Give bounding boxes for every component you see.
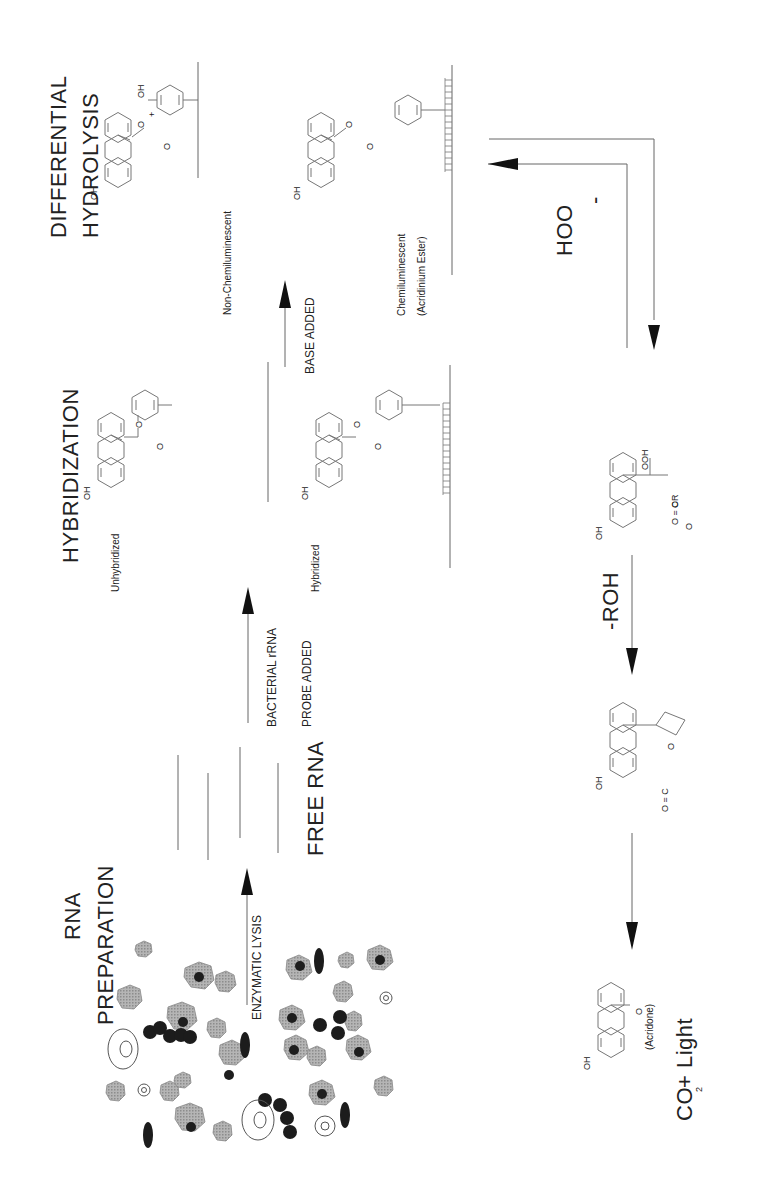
oh3-label: OH xyxy=(582,1057,592,1071)
acridone-product xyxy=(598,983,630,1058)
oh3-label: OH xyxy=(89,187,99,201)
free-rna-label: FREE RNA xyxy=(303,741,329,856)
carboxylate-o-label: O xyxy=(162,143,172,150)
roh-label: -ROH xyxy=(598,572,624,630)
acridone-label: (Acridone) xyxy=(644,1004,655,1050)
hoo-charge: - xyxy=(582,196,608,204)
ester-o-label: O xyxy=(352,421,362,428)
unhybridized-acridinium-ester xyxy=(98,362,268,502)
hoo-label: HOO xyxy=(552,204,578,256)
oc-label: O = C xyxy=(670,501,680,525)
free-rna-strands xyxy=(178,747,278,860)
non-chemiluminescent-label: Non-Chemiluminescent xyxy=(222,211,233,315)
base-added-label: BASE ADDED xyxy=(303,297,317,374)
dioxetane-o-label: O xyxy=(684,523,694,530)
products-light: + Light xyxy=(672,1018,698,1088)
probe-added-label: PROBE ADDED xyxy=(300,640,314,727)
hybridization-title: HYBRIDIZATION xyxy=(58,388,84,563)
oh3-label: OH xyxy=(292,187,302,201)
dioxetane-o-label: O xyxy=(666,743,676,750)
products-co: CO xyxy=(672,1087,698,1121)
ester-o-label: O xyxy=(344,121,354,128)
roh-arrow xyxy=(626,555,638,675)
decomposition-arrow xyxy=(626,833,638,950)
chemiluminescent-label: Chemiluminescent xyxy=(396,234,407,316)
plus-sign: + xyxy=(147,112,157,117)
carbonyl-o-label: O xyxy=(155,443,165,450)
non-chemiluminescent-product xyxy=(105,62,198,188)
probe-added-arrow xyxy=(242,587,254,723)
oc-label: O = C xyxy=(660,788,670,812)
hybridized-label: Hybridized xyxy=(310,545,321,592)
acridone-o-label: O xyxy=(634,1008,644,1015)
carboxylate-o-minus-label: O xyxy=(136,121,146,128)
carbonyl-o-label: O xyxy=(373,443,383,450)
dioxetanone-intermediate xyxy=(610,703,685,778)
oh3-label: OH xyxy=(594,777,604,791)
chemiluminescent-acridinium-ester xyxy=(308,65,452,275)
oh3-label: OH xyxy=(594,527,604,541)
rna-preparation-title-line2: PREPARATION xyxy=(93,865,119,1025)
differential-hydrolysis-title-line2: HYDROLYSIS xyxy=(78,93,104,238)
acridinium-ester-label: (Acridinium Ester) xyxy=(416,237,427,316)
bacterial-rrna-label: BACTERIAL rRNA xyxy=(265,628,279,727)
oh3-label: OH xyxy=(82,487,92,501)
peroxide-intermediate xyxy=(610,453,668,528)
carbonyl-o-label: O xyxy=(365,143,375,150)
hybridized-acridinium-ester xyxy=(316,365,450,568)
enzymatic-lysis-label: ENZYMATIC LYSIS xyxy=(250,915,264,1020)
ester-o-label: O xyxy=(134,421,144,428)
rna-preparation-title-line1: RNA xyxy=(60,892,86,940)
oh3-label: OH xyxy=(300,487,310,501)
ooh-label: OOH xyxy=(640,449,650,470)
differential-hydrolysis-title-line1: DIFFERENTIAL xyxy=(46,76,72,238)
base-added-arrow xyxy=(279,280,291,367)
unhybridized-label: Unhybridized xyxy=(110,534,121,592)
phenol-oh-label: OH xyxy=(136,85,146,99)
